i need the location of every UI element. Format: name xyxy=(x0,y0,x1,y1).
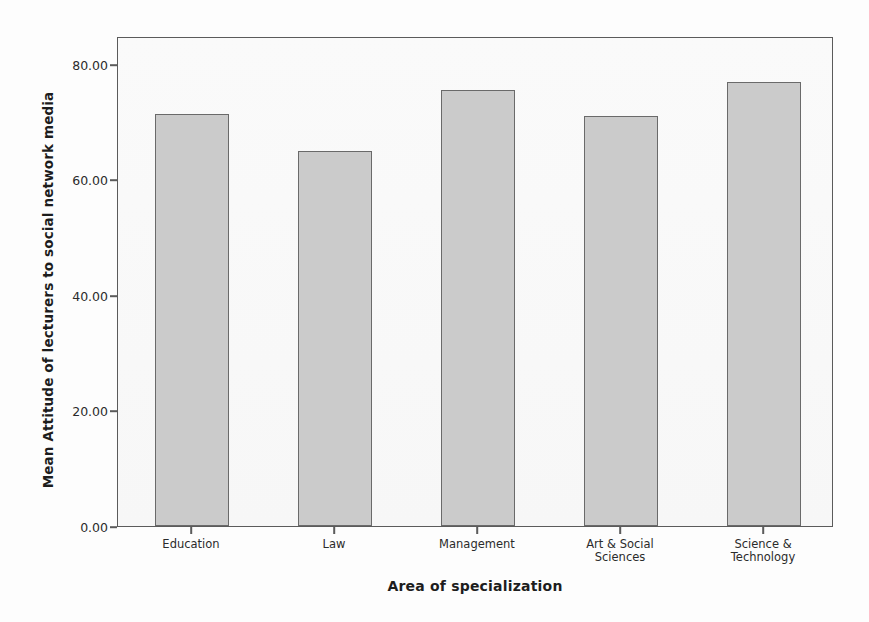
x-tick-label-law: Law xyxy=(269,538,399,551)
bar-chart-figure: Mean Attitude of lecturers to social net… xyxy=(0,0,869,622)
bar-management[interactable] xyxy=(441,90,515,526)
y-tick-label: 80.00 xyxy=(72,58,108,73)
bar-law[interactable] xyxy=(298,151,372,526)
plot-area xyxy=(117,37,833,527)
bars-container xyxy=(118,38,832,526)
y-tick-mark xyxy=(110,179,117,181)
y-tick-label: 40.00 xyxy=(72,289,108,304)
y-tick-mark xyxy=(110,295,117,297)
x-tick-mark xyxy=(190,527,192,534)
y-tick-label: 0.00 xyxy=(80,520,108,535)
y-axis-tick-labels: 80.00 60.00 40.00 20.00 0.00 xyxy=(44,0,108,622)
x-tick-label-science-technology: Science & Technology xyxy=(715,538,811,564)
bar-science-technology[interactable] xyxy=(727,82,801,526)
bar-education[interactable] xyxy=(155,114,229,527)
x-tick-mark xyxy=(619,527,621,534)
bar-art-social-sciences[interactable] xyxy=(584,116,658,526)
y-tick-mark xyxy=(110,64,117,66)
y-tick-label: 20.00 xyxy=(72,404,108,419)
x-tick-label-education: Education xyxy=(126,538,256,551)
y-tick-mark xyxy=(110,410,117,412)
x-tick-mark xyxy=(762,527,764,534)
x-tick-label-management: Management xyxy=(412,538,542,551)
x-tick-mark xyxy=(333,527,335,534)
y-tick-label: 60.00 xyxy=(72,173,108,188)
y-tick-mark xyxy=(110,526,117,528)
x-tick-mark xyxy=(476,527,478,534)
x-axis-title: Area of specialization xyxy=(117,578,833,594)
x-tick-label-art-social-sciences: Art & Social Sciences xyxy=(572,538,668,564)
